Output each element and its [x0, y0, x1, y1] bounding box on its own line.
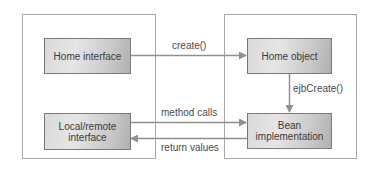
- create-label: create(): [172, 40, 206, 52]
- bean-implementation-box: Bean implementation: [247, 113, 332, 149]
- ejb-create-label: ejbCreate(): [293, 83, 343, 95]
- home-object-box: Home object: [247, 38, 332, 74]
- method-calls-label: method calls: [161, 107, 217, 119]
- home-interface-box: Home interface: [44, 38, 131, 74]
- return-values-label: return values: [161, 142, 219, 154]
- local-remote-interface-box: Local/remote interface: [44, 113, 131, 150]
